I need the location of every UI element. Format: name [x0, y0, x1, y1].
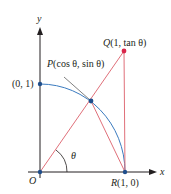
point-P: [89, 99, 94, 104]
unit-circle-arc: [40, 84, 125, 172]
point-y-intercept: [38, 82, 42, 86]
point-Q: [122, 49, 127, 54]
R-name: R: [110, 177, 117, 188]
origin-label: O: [29, 175, 36, 186]
Q-coords: (1, tan θ): [110, 37, 146, 49]
R-label: R(1, 0): [110, 177, 139, 189]
P-coords: (cos θ, sin θ): [53, 58, 104, 70]
R-coords: (1, 0): [117, 177, 139, 189]
y-intercept-label: (0, 1): [12, 78, 34, 90]
theta-label: θ: [71, 150, 76, 161]
x-axis: x: [28, 166, 165, 177]
P-label: P(cos θ, sin θ): [46, 58, 104, 70]
y-axis-label: y: [36, 13, 42, 24]
line-R-to-Q: [124, 51, 125, 172]
P-name: P: [46, 58, 53, 69]
theta-angle-arc: [56, 150, 67, 172]
x-axis-arrow-icon: [149, 169, 157, 175]
x-axis-label: x: [159, 166, 165, 177]
line-O-to-Q: [40, 51, 124, 172]
y-axis: y: [36, 13, 43, 178]
y-axis-arrow-icon: [37, 27, 43, 35]
line-P-to-R: [91, 101, 125, 172]
point-O: [38, 170, 42, 174]
unit-circle-diagram: y x θ (0, 1) O P(cos θ, sin θ) Q(1, tan …: [0, 0, 171, 194]
point-R: [123, 170, 127, 174]
Q-label: Q(1, tan θ): [103, 37, 146, 49]
